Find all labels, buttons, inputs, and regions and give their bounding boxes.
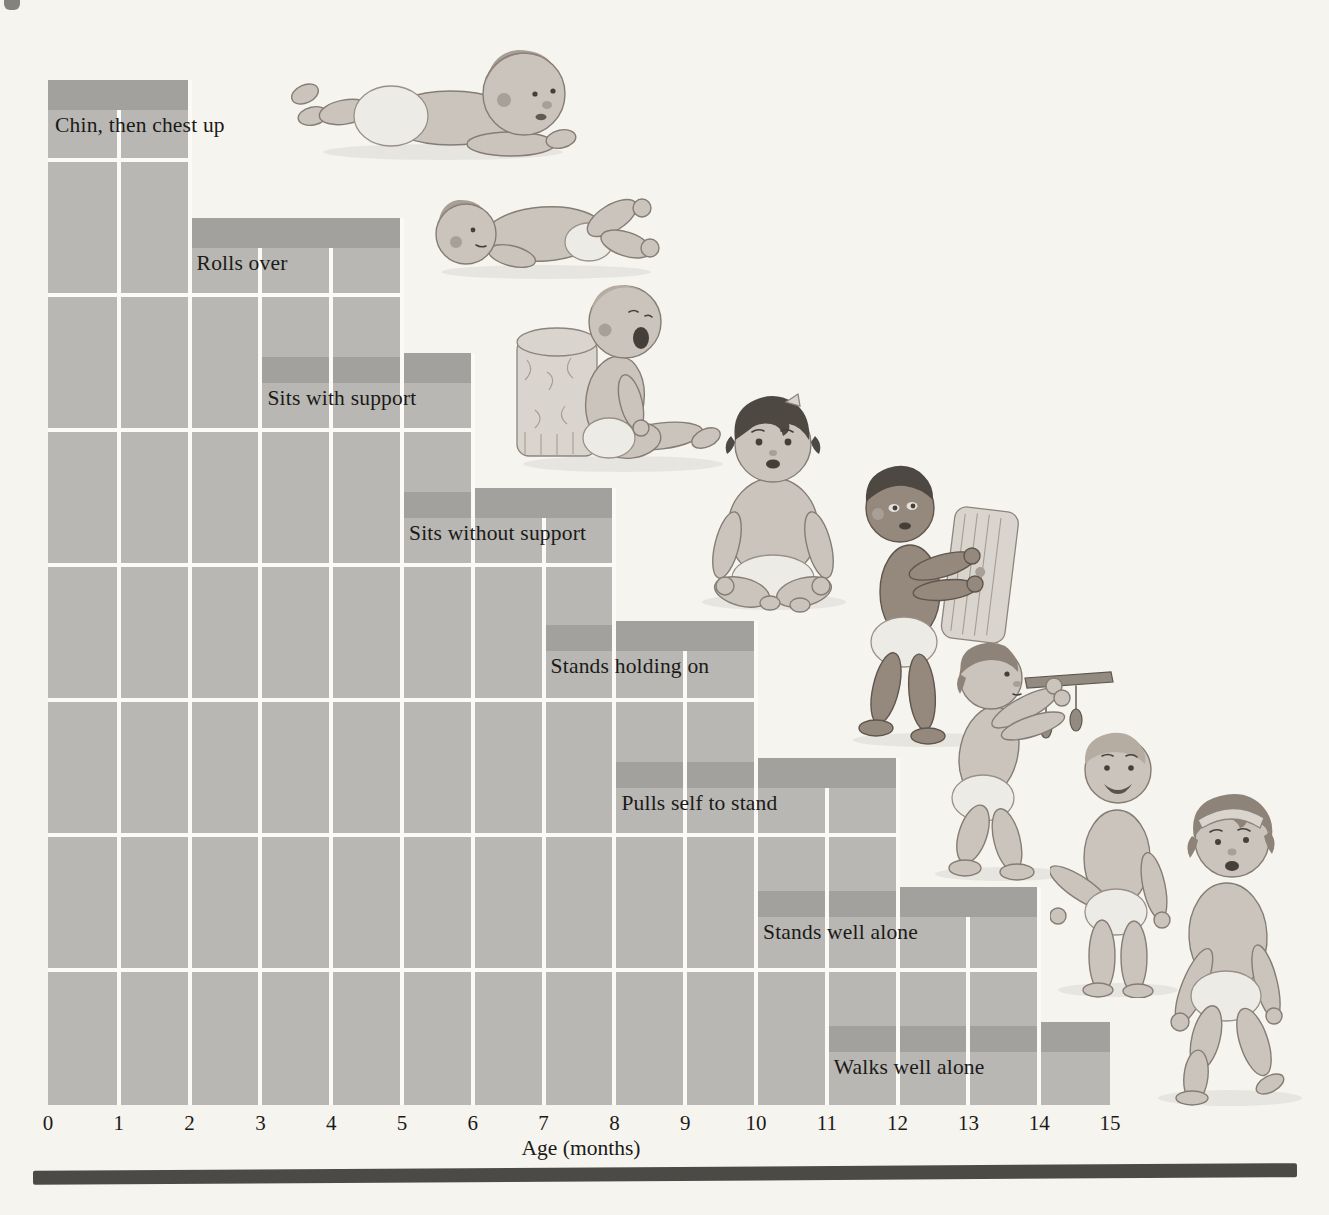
- gridline-horizontal: [473, 698, 544, 702]
- gridline-horizontal: [473, 968, 544, 972]
- x-tick-7: 7: [522, 1113, 566, 1134]
- gridline-horizontal: [48, 698, 119, 702]
- milestone-band-segment: [333, 357, 400, 383]
- gridline-horizontal: [48, 428, 119, 432]
- milestone-staircase-chart: Chin, then chest upRolls overSits with s…: [0, 0, 1329, 1215]
- milestone-band-segment: [475, 488, 613, 518]
- gridline-horizontal: [402, 968, 473, 972]
- gridline-horizontal: [190, 698, 261, 702]
- gridline-horizontal: [119, 158, 190, 162]
- gridline-horizontal: [898, 968, 969, 972]
- gridline-horizontal: [544, 968, 615, 972]
- gridline-horizontal: [48, 563, 119, 567]
- gridline-horizontal: [260, 968, 331, 972]
- x-tick-9: 9: [663, 1113, 707, 1134]
- gridline-horizontal: [260, 293, 331, 297]
- milestone-band-segment: [192, 218, 400, 248]
- x-tick-4: 4: [309, 1113, 353, 1134]
- gridline-horizontal: [331, 968, 402, 972]
- bar-column-month-5: [404, 353, 471, 1105]
- gridline-horizontal: [260, 428, 331, 432]
- gridline-horizontal: [119, 968, 190, 972]
- gridline-horizontal: [614, 698, 685, 702]
- gridline-horizontal: [614, 968, 685, 972]
- gridline-horizontal: [190, 293, 261, 297]
- gridline-vertical-month-1: [117, 80, 121, 1105]
- gridline-horizontal: [756, 833, 827, 837]
- milestone-label: Walks well alone: [834, 1056, 985, 1079]
- milestone-band-segment: [829, 1026, 896, 1052]
- milestone-band-segment: [546, 625, 613, 651]
- gridline-horizontal: [119, 698, 190, 702]
- x-tick-13: 13: [946, 1113, 990, 1134]
- milestone-band-segment: [404, 492, 471, 518]
- bar-column-month-9: [687, 621, 754, 1105]
- x-tick-8: 8: [592, 1113, 636, 1134]
- gridline-horizontal: [260, 563, 331, 567]
- gridline-vertical-month-10: [754, 621, 758, 1105]
- bar-column-month-0: [48, 80, 117, 1105]
- gridline-horizontal: [48, 833, 119, 837]
- milestone-band-segment: [829, 891, 896, 917]
- gridline-vertical-month-6: [471, 353, 475, 1105]
- x-tick-6: 6: [451, 1113, 495, 1134]
- gridline-horizontal: [48, 293, 119, 297]
- gridline-horizontal: [331, 833, 402, 837]
- milestone-band-segment: [900, 1026, 967, 1052]
- bar-column-month-1: [121, 80, 188, 1105]
- gridline-horizontal: [402, 428, 473, 432]
- x-tick-2: 2: [168, 1113, 212, 1134]
- baby-sits-without-support: [698, 390, 848, 614]
- gridline-horizontal: [685, 698, 756, 702]
- gridline-horizontal: [260, 698, 331, 702]
- gridline-vertical-month-14: [1037, 887, 1041, 1105]
- bar-column-month-8: [616, 621, 683, 1105]
- x-tick-1: 1: [97, 1113, 141, 1134]
- gridline-horizontal: [119, 293, 190, 297]
- milestone-band-segment: [970, 1026, 1037, 1052]
- gridline-horizontal: [119, 563, 190, 567]
- milestone-label: Stands well alone: [763, 921, 918, 944]
- milestone-label: Stands holding on: [551, 655, 710, 678]
- gridline-horizontal: [968, 968, 1039, 972]
- x-tick-15: 15: [1088, 1113, 1132, 1134]
- baby-walks-well-alone: [1146, 786, 1314, 1108]
- milestone-figure: Chin, then chest upRolls overSits with s…: [0, 0, 1329, 1215]
- gridline-horizontal: [473, 563, 544, 567]
- gridline-horizontal: [544, 563, 615, 567]
- gridline-horizontal: [331, 563, 402, 567]
- gridline-horizontal: [827, 833, 898, 837]
- baby-sits-with-support: [513, 280, 727, 482]
- x-axis-label: Age (months): [522, 1138, 641, 1160]
- gridline-horizontal: [331, 293, 402, 297]
- milestone-label: Pulls self to stand: [621, 792, 777, 815]
- gridline-horizontal: [48, 158, 119, 162]
- gridline-horizontal: [190, 428, 261, 432]
- milestone-band-segment: [900, 887, 1038, 917]
- milestone-label: Sits without support: [409, 522, 586, 545]
- gridline-horizontal: [685, 968, 756, 972]
- gridline-horizontal: [190, 833, 261, 837]
- gridline-horizontal: [402, 833, 473, 837]
- baby-rolls-over: [426, 184, 664, 284]
- gridline-horizontal: [544, 833, 615, 837]
- x-tick-5: 5: [380, 1113, 424, 1134]
- gridline-horizontal: [756, 968, 827, 972]
- gridline-horizontal: [190, 563, 261, 567]
- milestone-band-segment: [616, 762, 683, 788]
- milestone-band-segment: [48, 80, 188, 110]
- milestone-band-segment: [758, 758, 896, 788]
- gridline-horizontal: [260, 833, 331, 837]
- x-tick-10: 10: [734, 1113, 778, 1134]
- gridline-vertical-month-9: [683, 621, 687, 1105]
- bar-column-month-6: [475, 488, 542, 1105]
- gridline-horizontal: [48, 968, 119, 972]
- gridline-horizontal: [331, 698, 402, 702]
- gridline-horizontal: [614, 833, 685, 837]
- milestone-band-segment: [1041, 1022, 1110, 1052]
- milestone-band-segment: [262, 357, 329, 383]
- x-tick-14: 14: [1017, 1113, 1061, 1134]
- x-tick-3: 3: [238, 1113, 282, 1134]
- gridline-horizontal: [331, 428, 402, 432]
- milestone-band-segment: [616, 621, 754, 651]
